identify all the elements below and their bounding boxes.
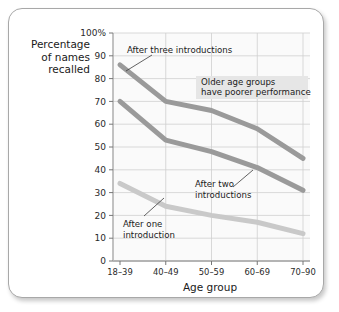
x-tick-label-0: 18–39	[107, 267, 133, 277]
annotation-after-one-introduction-line-1: After one	[123, 219, 162, 229]
annotation-after-two-introductions-line-2: introductions	[195, 190, 252, 200]
y-tick-label-60: 60	[95, 119, 107, 129]
annotation-after-two-introductions-line-1: After two	[195, 179, 234, 189]
y-axis-ticks: 0102030405060708090100%	[80, 28, 113, 266]
y-tick-label-80: 80	[95, 74, 107, 84]
x-tick-label-1: 40–49	[153, 267, 179, 277]
y-tick-label-0: 0	[100, 256, 106, 266]
x-tick-label-4: 70–90	[290, 267, 316, 277]
chart-figure: Percentage of names recalled Age group 0…	[0, 0, 339, 312]
plot-area: 0102030405060708090100% 18–3940–4950–596…	[0, 0, 339, 312]
annotation-older-age-groups-line-1: Older age groups	[201, 77, 276, 87]
y-tick-label-90: 90	[95, 51, 107, 61]
annotation-older-age-groups-line-2: have poorer performance	[201, 87, 311, 97]
y-tick-label-100: 100%	[80, 28, 106, 38]
y-tick-label-50: 50	[95, 142, 107, 152]
annotation-after-one-introduction-line-2: introduction	[123, 230, 175, 240]
x-axis-ticks: 18–3940–4950–5960–6970–90	[107, 261, 316, 277]
x-tick-label-2: 50–59	[199, 267, 225, 277]
x-tick-label-3: 60–69	[244, 267, 270, 277]
y-tick-label-30: 30	[95, 188, 107, 198]
y-tick-label-40: 40	[95, 165, 107, 175]
y-tick-label-20: 20	[95, 211, 107, 221]
y-tick-label-70: 70	[95, 97, 107, 107]
y-tick-label-10: 10	[95, 233, 107, 243]
annotation-after-three-introductions: After three introductions	[127, 45, 233, 55]
